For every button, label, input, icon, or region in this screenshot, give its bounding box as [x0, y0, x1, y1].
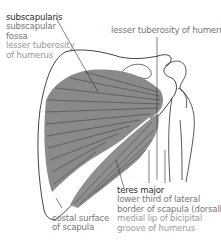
- label-lesser-tuberosity: lesser tuberosity of humerus: [111, 26, 221, 35]
- subscapularis-insertion-2: of humerus: [6, 51, 74, 60]
- label-teres-major: teres major lower third of lateral borde…: [117, 186, 221, 233]
- label-subscapularis: subscapularis subscapular fossa lesser t…: [6, 13, 74, 60]
- teres-major-insertion-2: groove of humerus: [117, 224, 221, 233]
- humerus-outline: [165, 61, 194, 182]
- label-costal-surface: costal surface of scapula: [52, 214, 109, 233]
- costal-surface-line-2: of scapula: [52, 223, 109, 232]
- leader-costal-surface: [56, 198, 62, 208]
